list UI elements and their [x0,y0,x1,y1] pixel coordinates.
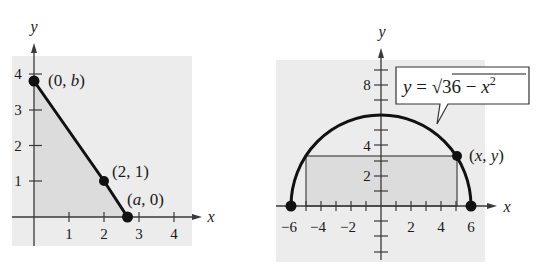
right-y-tick-label: 8 [363,77,371,93]
left-x-tick-label: 3 [135,226,143,242]
point-x-y [452,151,462,161]
left-y-arrow-icon [31,43,37,53]
left-x-axis-label: x [206,208,214,225]
left-chart: 1 2 3 4 1 2 3 4 y x (0, b) (2, 1) (a, 0) [12,18,215,246]
label-x-y: (x, y) [469,146,504,165]
right-x-arrow-icon [487,203,497,209]
right-x-tick-label: 6 [467,219,475,235]
point-6-0 [466,201,477,212]
right-x-tick-label: −2 [340,219,356,235]
label-a-0: (a, 0) [127,190,164,209]
right-chart: −6 −4 −2 2 4 6 2 4 8 y x (x, y) y = √36 … [276,23,529,262]
label-0-b: (0, b) [48,71,85,90]
right-y-tick-label: 4 [363,138,371,154]
point-neg6-0 [286,201,297,212]
figure: 1 2 3 4 1 2 3 4 y x (0, b) (2, 1) (a, 0) [0,0,546,277]
point-2-1 [99,176,109,186]
right-x-tick-label: 2 [407,219,415,235]
right-x-axis-label: x [502,198,510,215]
left-y-tick-label: 3 [14,102,22,118]
right-y-arrow-icon [378,48,384,58]
left-x-tick-label: 1 [65,226,73,242]
label-2-1: (2, 1) [112,162,149,181]
left-y-tick-label: 1 [14,173,22,189]
left-x-tick-label: 4 [170,226,178,242]
left-x-tick-label: 2 [100,226,108,242]
left-x-arrow-icon [192,214,202,220]
left-y-tick-label: 4 [14,66,22,82]
point-a-0 [122,212,133,223]
right-x-tick-label: −6 [281,219,297,235]
right-x-tick-label: 4 [437,219,445,235]
callout-equation: y = √36 − x2 [401,74,496,97]
right-x-tick-label: −4 [310,219,326,235]
right-y-axis-label: y [376,23,386,41]
left-y-tick-label: 2 [14,138,22,154]
left-y-axis-label: y [28,18,38,36]
point-0-b [29,76,40,87]
right-y-tick-label: 2 [363,168,371,184]
